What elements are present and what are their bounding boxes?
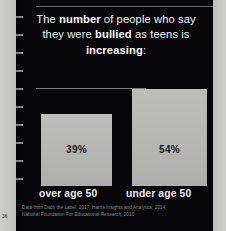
category-label-under-age-50: under age 50 (126, 188, 191, 199)
bar-value-over-age-50: 39% (41, 144, 112, 155)
bar-over-age-50: 39% (41, 114, 112, 186)
source-line-2: National Foundation For Educational Rese… (22, 212, 202, 219)
magazine-page: 36 The number of people who say they wer… (0, 0, 226, 231)
page-margin-left (0, 0, 16, 231)
bar-under-age-50: 54% (132, 89, 207, 186)
source-citation: Data from Ditch the Label, 2017; Harris … (22, 205, 202, 218)
page-margin-right (213, 0, 226, 231)
source-line-1: Data from Ditch the Label, 2017; Harris … (22, 205, 202, 212)
bar-value-under-age-50: 54% (132, 144, 207, 155)
chart-panel: The number of people who say they were b… (16, 0, 213, 231)
category-label-over-age-50: over age 50 (39, 188, 97, 199)
page-number: 36 (2, 213, 8, 219)
category-label-strip: over age 50 under age 50 (16, 188, 213, 204)
